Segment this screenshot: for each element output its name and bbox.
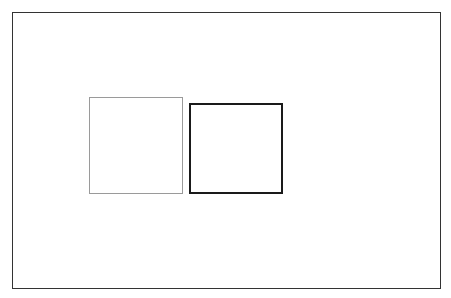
right-square-dark <box>189 103 283 194</box>
left-square-light <box>89 97 183 194</box>
